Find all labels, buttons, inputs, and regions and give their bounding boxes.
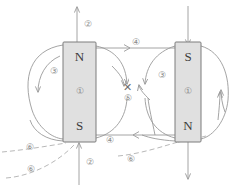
left-magnet-bottom-pole: S [76,118,83,133]
field-line-right-inner-lower [145,98,175,138]
field-line-left-outer [28,45,63,139]
callout-6-right: ⑥ [127,154,135,164]
field-line-right-outer-arrow [221,90,225,112]
callout-2-top: ② [84,19,92,29]
field-line-right-outer [201,46,228,139]
dashed-line-upper [2,143,66,152]
callout-4-upper: ④ [132,37,140,47]
field-line-right-up-arrow [218,92,220,120]
callout-6-upper-left: ⑥ [26,142,34,152]
field-line-left-inner-upper [96,46,127,84]
left-magnet-top-pole: N [75,49,85,64]
left-magnet[interactable]: N ① S [63,42,96,142]
right-magnet-top-pole: S [184,49,191,64]
callout-2-bottom: ② [86,157,94,167]
callout-3-right: ③ [158,70,166,80]
callout-3-left: ③ [50,66,58,76]
field-line-center-right-up [139,85,150,100]
dashed-line-lower [6,145,74,178]
left-magnet-center-label: ① [76,86,84,96]
field-line-left-inner-lower [96,98,127,138]
magnetic-field-diagram: N ① S S ① N ✕ ② ③ ④ ③ ⑤ ④ ⑥ ⑥ ⑥ ② [0,0,240,187]
callout-6-lower-left: ⑥ [27,164,35,174]
right-magnet[interactable]: S ① N [175,42,201,142]
right-magnet-bottom-pole: N [183,118,193,133]
center-cross-icon: ✕ [123,81,132,93]
field-line-bottom-right-sweep [142,135,175,141]
callout-5-center: ⑤ [124,93,132,103]
right-magnet-center-label: ① [184,86,192,96]
callout-4-lower: ④ [106,135,114,145]
